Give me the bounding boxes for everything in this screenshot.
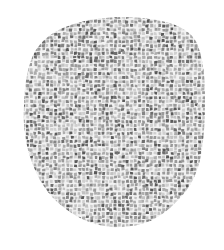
mosaic-blob-image	[0, 0, 224, 250]
